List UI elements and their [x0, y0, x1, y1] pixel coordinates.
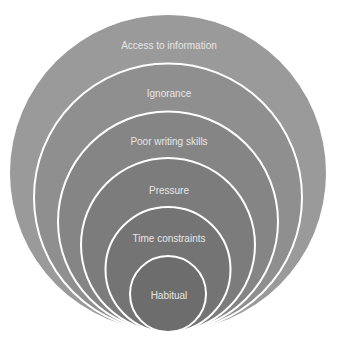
label-habitual: Habitual	[0, 290, 338, 302]
label-ignorance: Ignorance	[0, 88, 338, 100]
label-poor-writing-skills: Poor writing skills	[0, 136, 338, 148]
label-access-to-information: Access to information	[0, 40, 338, 52]
label-time-constraints: Time constraints	[0, 233, 338, 245]
label-pressure: Pressure	[0, 185, 338, 197]
